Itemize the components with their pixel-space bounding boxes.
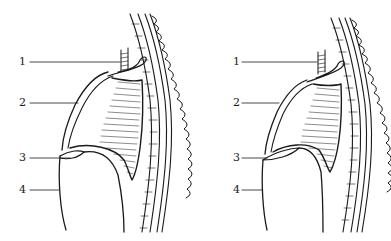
trachea <box>121 48 128 72</box>
callout-label-2: 2 <box>233 97 240 108</box>
anatomical-figure-left: 1 2 3 4 <box>0 0 196 241</box>
anatomical-figure-right: 1 2 3 4 <box>195 0 391 241</box>
sagittal-section-drawing <box>0 0 196 241</box>
chest-wall <box>265 80 307 154</box>
chest-wall <box>62 72 108 150</box>
sagittal-section-drawing <box>195 0 391 241</box>
spine <box>331 18 372 232</box>
diaphragm <box>263 148 299 160</box>
leader-lines <box>30 62 120 190</box>
callout-label-1: 1 <box>233 56 240 67</box>
lung-hatching <box>301 88 339 168</box>
abdominal-wall <box>59 156 66 230</box>
abdominal-wall <box>262 160 267 230</box>
diaphragm <box>60 151 84 159</box>
spine <box>130 14 172 232</box>
lung-hatching <box>100 82 140 174</box>
callout-label-4: 4 <box>233 184 240 195</box>
callout-label-2: 2 <box>19 97 26 108</box>
trachea <box>318 50 325 74</box>
callout-label-4: 4 <box>19 184 26 195</box>
callout-label-3: 3 <box>19 152 26 163</box>
spinous-processes <box>352 20 391 192</box>
callout-label-3: 3 <box>233 152 240 163</box>
leader-lines <box>242 62 317 190</box>
callout-label-1: 1 <box>19 56 26 67</box>
